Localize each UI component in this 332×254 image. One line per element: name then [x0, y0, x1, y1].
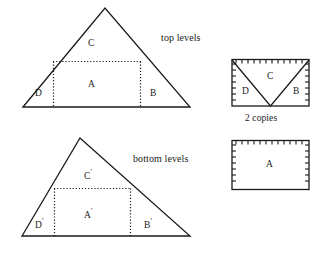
top-triangle-label-A: A — [88, 80, 95, 90]
rect-a-label-A: A — [266, 160, 273, 170]
top-triangle-label-C: C — [88, 39, 94, 49]
bottom-triangle-label-C-prime: C′ — [84, 169, 92, 182]
bottom-triangle-label-D-prime-mark: ′ — [42, 217, 44, 226]
bottom-triangle-label-D-prime-text: D — [35, 220, 42, 230]
top-triangle-outline — [23, 8, 190, 107]
v-wedge-lines — [232, 60, 309, 106]
bottom-levels-caption: bottom levels — [133, 154, 188, 164]
two-copies-rectangle — [232, 60, 309, 107]
two-copies-label-D: D — [242, 87, 249, 97]
bottom-triangle-label-D-prime: D′ — [35, 218, 44, 231]
bottom-triangle-label-A-prime-mark: ′ — [91, 207, 93, 216]
bottom-triangle-label-C-prime-mark: ′ — [90, 168, 92, 177]
two-copies-caption: 2 copies — [245, 114, 277, 124]
bottom-triangle-label-B-prime: B′ — [144, 218, 152, 231]
two-copies-label-C: C — [267, 72, 273, 82]
top-triangle-label-D: D — [35, 89, 42, 99]
top-levels-triangle — [23, 8, 190, 107]
two-copies-rect-outline — [232, 60, 309, 107]
two-copies-label-B: B — [293, 87, 299, 97]
bottom-triangle-label-A-prime-text: A — [84, 210, 91, 220]
top-triangle-label-B: B — [150, 89, 156, 99]
bottom-triangle-label-A-prime: A′ — [84, 208, 93, 221]
top-levels-caption: top levels — [161, 33, 201, 43]
bottom-triangle-label-B-prime-mark: ′ — [150, 217, 152, 226]
diagram-canvas: C A D B top levels C′ A′ D′ B′ bottom le… — [0, 0, 332, 254]
